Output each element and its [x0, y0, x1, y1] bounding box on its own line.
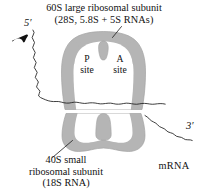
caption-small-subunit-line1: 40S small	[2, 154, 130, 166]
a-site-label: A site	[107, 54, 133, 75]
small-subunit-central-bump	[96, 114, 111, 141]
a-site-word: site	[107, 65, 133, 76]
three-prime-end-label: 3′	[186, 120, 194, 132]
mrna-five-prime-arrowhead	[12, 34, 28, 42]
p-site-label: P site	[74, 54, 100, 75]
ribosome-translation-diagram: 60S large ribosomal subunit (28S, 5.8S +…	[0, 0, 208, 196]
five-prime-end-label: 5′	[24, 17, 32, 29]
caption-large-subunit-line1: 60S large ribosomal subunit	[0, 2, 208, 14]
caption-small-subunit: 40S small ribosomal subunit (18S RNA)	[2, 154, 130, 189]
caption-small-subunit-line2: ribosomal subunit	[2, 166, 130, 178]
caption-small-subunit-line3: (18S RNA)	[2, 177, 130, 189]
p-site-word: site	[74, 65, 100, 76]
mrna-label: mRNA	[142, 160, 206, 172]
